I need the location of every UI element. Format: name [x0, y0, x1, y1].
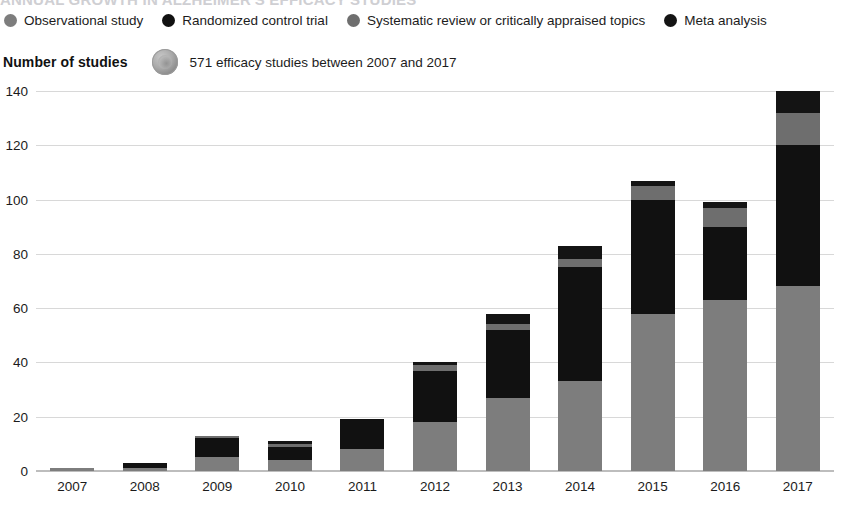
bar-segment[interactable] — [413, 365, 457, 370]
x-axis-labels: 2007200820092010201120122013201420152016… — [36, 479, 834, 503]
bar-column[interactable] — [558, 246, 602, 471]
bar-segment[interactable] — [776, 113, 820, 146]
x-axis-tick-label: 2015 — [638, 479, 668, 494]
clipped-headline: ANNUAL GROWTH IN ALZHEIMER'S EFFICACY ST… — [0, 0, 416, 8]
bar-column[interactable] — [268, 441, 312, 471]
bar-segment[interactable] — [703, 202, 747, 207]
bar-segment[interactable] — [268, 447, 312, 461]
x-axis-tick-label: 2007 — [57, 479, 87, 494]
bar-column[interactable] — [413, 362, 457, 471]
plot-area — [36, 91, 834, 471]
bar-segment[interactable] — [631, 181, 675, 186]
bar-group — [36, 91, 834, 471]
study-badge-icon — [152, 49, 178, 75]
bar-segment[interactable] — [631, 200, 675, 314]
x-axis-tick-label: 2012 — [420, 479, 450, 494]
axis-title: Number of studies — [3, 54, 128, 70]
bar-segment[interactable] — [50, 468, 94, 471]
y-axis-tick-label: 40 — [13, 355, 28, 370]
legend-item[interactable]: Observational study — [4, 13, 143, 28]
y-axis-tick-label: 80 — [13, 246, 28, 261]
bar-segment[interactable] — [340, 419, 384, 449]
x-axis-tick-label: 2017 — [783, 479, 813, 494]
y-axis-tick-label: 120 — [5, 138, 28, 153]
legend-label: Meta analysis — [684, 13, 767, 28]
bar-segment[interactable] — [413, 422, 457, 471]
bar-segment[interactable] — [486, 330, 530, 398]
bar-column[interactable] — [631, 181, 675, 471]
bar-segment[interactable] — [558, 246, 602, 260]
bar-column[interactable] — [486, 314, 530, 471]
bar-segment[interactable] — [558, 267, 602, 381]
y-axis-tick-label: 60 — [13, 301, 28, 316]
bar-column[interactable] — [703, 202, 747, 471]
x-axis-tick-label: 2014 — [565, 479, 595, 494]
bar-segment[interactable] — [268, 441, 312, 444]
legend-label: Randomized control trial — [182, 13, 328, 28]
bar-column[interactable] — [195, 436, 239, 471]
bar-segment[interactable] — [195, 457, 239, 471]
bar-segment[interactable] — [123, 468, 167, 471]
bar-segment[interactable] — [413, 362, 457, 365]
subtitle-text: 571 efficacy studies between 2007 and 20… — [190, 55, 457, 70]
y-axis-tick-label: 100 — [5, 192, 28, 207]
x-axis-tick-label: 2010 — [275, 479, 305, 494]
x-axis-tick-label: 2011 — [348, 479, 377, 494]
bar-segment[interactable] — [268, 444, 312, 447]
bar-segment[interactable] — [486, 398, 530, 471]
bar-segment[interactable] — [486, 324, 530, 329]
bar-segment[interactable] — [123, 463, 167, 468]
bar-segment[interactable] — [776, 91, 820, 113]
x-axis-tick-label: 2013 — [493, 479, 523, 494]
bar-segment[interactable] — [268, 460, 312, 471]
legend-item[interactable]: Systematic review or critically appraise… — [347, 13, 645, 28]
bar-segment[interactable] — [703, 300, 747, 471]
bar-segment[interactable] — [413, 371, 457, 423]
bar-segment[interactable] — [486, 314, 530, 325]
bar-segment[interactable] — [340, 449, 384, 471]
chart-root: ANNUAL GROWTH IN ALZHEIMER'S EFFICACY ST… — [0, 0, 852, 514]
legend-swatch-icon — [347, 14, 360, 27]
bar-column[interactable] — [123, 463, 167, 471]
x-axis-tick-label: 2008 — [130, 479, 160, 494]
legend-swatch-icon — [162, 14, 175, 27]
bar-segment[interactable] — [558, 381, 602, 471]
y-axis-labels: 020406080100120140 — [0, 91, 34, 473]
bar-segment[interactable] — [776, 286, 820, 471]
bar-segment[interactable] — [195, 436, 239, 439]
bar-segment[interactable] — [195, 438, 239, 457]
bar-column[interactable] — [50, 468, 94, 471]
y-axis-tick-label: 0 — [20, 464, 28, 479]
bar-segment[interactable] — [558, 259, 602, 267]
legend-label: Systematic review or critically appraise… — [367, 13, 645, 28]
bar-segment[interactable] — [703, 208, 747, 227]
bar-segment[interactable] — [631, 186, 675, 200]
y-axis-tick-label: 20 — [13, 409, 28, 424]
x-axis-tick-label: 2009 — [202, 479, 232, 494]
legend-label: Observational study — [24, 13, 143, 28]
y-axis-tick-label: 140 — [5, 84, 28, 99]
bar-column[interactable] — [340, 419, 384, 471]
subtitle-row: Number of studies 571 efficacy studies b… — [3, 48, 457, 76]
legend-item[interactable]: Randomized control trial — [162, 13, 328, 28]
legend-swatch-icon — [4, 14, 17, 27]
legend-swatch-icon — [664, 14, 677, 27]
chart-legend: Observational studyRandomized control tr… — [4, 10, 767, 30]
legend-item[interactable]: Meta analysis — [664, 13, 767, 28]
bar-segment[interactable] — [776, 145, 820, 286]
x-axis-tick-label: 2016 — [710, 479, 740, 494]
bar-segment[interactable] — [631, 314, 675, 471]
bar-segment[interactable] — [703, 227, 747, 300]
bar-column[interactable] — [776, 91, 820, 471]
